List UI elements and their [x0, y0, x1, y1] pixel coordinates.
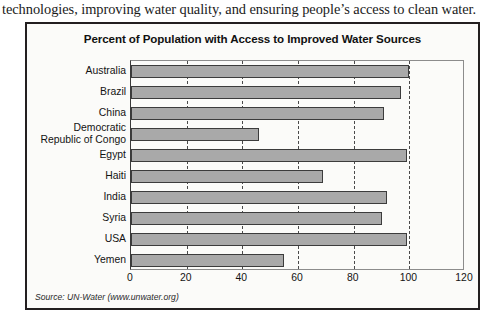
x-tick-label-120: 120 [455, 272, 472, 283]
category-label: USA [105, 233, 126, 245]
x-tick-label-0: 0 [127, 272, 133, 283]
category-label: India [103, 191, 126, 203]
category-label: China [99, 107, 126, 119]
x-tick-label-80: 80 [347, 272, 359, 283]
bar-row [131, 145, 407, 166]
gridline-100 [409, 61, 410, 269]
bar-haiti [131, 170, 323, 183]
category-label: Democratic Republic of Congo [41, 122, 127, 145]
source-note: Source: UN-Water (www.unwater.org) [35, 292, 179, 302]
bar-democratic-republic-of-congo [131, 128, 259, 141]
bar-china [131, 107, 384, 120]
figure-inner: Percent of Population with Access to Imp… [27, 24, 478, 308]
bar-row [131, 187, 387, 208]
category-label: Syria [102, 212, 126, 224]
category-label: Haiti [105, 170, 126, 182]
bar-india [131, 191, 387, 204]
bar-row [131, 103, 384, 124]
x-tick-label-60: 60 [291, 272, 303, 283]
category-label: Australia [86, 65, 126, 77]
category-axis-labels: AustraliaBrazilChinaDemocratic Republic … [27, 60, 126, 270]
category-label: Brazil [100, 86, 126, 98]
bar-row [131, 61, 409, 82]
bar-egypt [131, 149, 407, 162]
bar-australia [131, 65, 409, 78]
bar-row [131, 229, 407, 250]
intro-paragraph: technologies, improving water quality, a… [2, 1, 502, 18]
category-label: Yemen [94, 254, 126, 266]
bar-usa [131, 233, 407, 246]
bar-brazil [131, 86, 401, 99]
x-tick-label-100: 100 [400, 272, 417, 283]
bar-yemen [131, 254, 284, 267]
bar-row [131, 124, 259, 145]
bar-syria [131, 212, 382, 225]
bar-row [131, 166, 323, 187]
chart-title: Percent of Population with Access to Imp… [27, 32, 478, 45]
bar-row [131, 82, 401, 103]
bar-row [131, 208, 382, 229]
x-tick-label-20: 20 [180, 272, 192, 283]
bar-row [131, 250, 284, 271]
x-tick-label-40: 40 [236, 272, 248, 283]
value-axis-labels: 020406080100120 [130, 272, 464, 288]
figure-frame: Percent of Population with Access to Imp… [25, 22, 480, 310]
category-label: Egypt [99, 149, 126, 161]
plot-area [130, 60, 464, 270]
